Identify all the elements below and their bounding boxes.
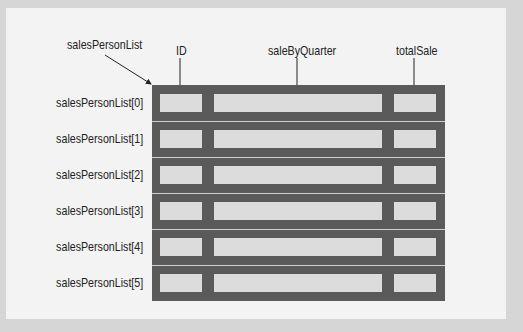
total-sale-cell <box>394 274 436 292</box>
array-row-3 <box>152 193 445 228</box>
sale-by-quarter-cell <box>214 202 382 220</box>
total-sale-cell <box>394 130 436 148</box>
row-label-2: salesPersonList[2] <box>56 167 143 182</box>
total-sale-cell <box>394 166 436 184</box>
id-cell <box>160 274 202 292</box>
total-sale-cell <box>394 94 436 112</box>
id-cell <box>160 166 202 184</box>
id-cell <box>160 94 202 112</box>
array-row-4 <box>152 229 445 264</box>
sale-by-quarter-cell <box>214 166 382 184</box>
array-row-5 <box>152 265 445 300</box>
row-label-3: salesPersonList[3] <box>56 203 143 218</box>
id-cell <box>160 202 202 220</box>
id-cell <box>160 130 202 148</box>
sales-person-array <box>152 85 445 301</box>
sale-by-quarter-cell <box>214 94 382 112</box>
id-cell <box>160 238 202 256</box>
total-sale-cell <box>394 202 436 220</box>
array-row-2 <box>152 157 445 192</box>
array-row-1 <box>152 121 445 156</box>
sale-by-quarter-cell <box>214 238 382 256</box>
sale-by-quarter-cell <box>214 274 382 292</box>
row-label-0: salesPersonList[0] <box>56 95 143 110</box>
row-label-5: salesPersonList[5] <box>56 275 143 290</box>
array-row-0 <box>152 85 445 120</box>
total-sale-cell <box>394 238 436 256</box>
sale-by-quarter-cell <box>214 130 382 148</box>
row-label-1: salesPersonList[1] <box>56 131 143 146</box>
row-label-4: salesPersonList[4] <box>56 239 143 254</box>
